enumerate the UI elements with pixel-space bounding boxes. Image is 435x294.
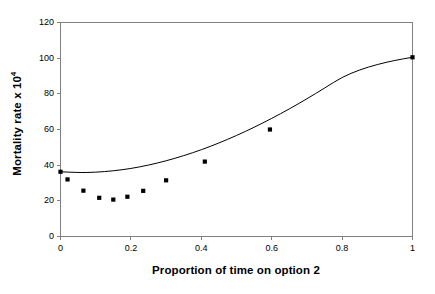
data-point-marker xyxy=(65,177,69,181)
data-point-marker xyxy=(410,55,414,59)
data-point-marker xyxy=(111,197,115,201)
data-point-marker xyxy=(81,189,85,193)
x-axis-title: Proportion of time on option 2 xyxy=(60,264,412,276)
data-point-marker xyxy=(125,195,129,199)
data-point-marker xyxy=(268,127,272,131)
fitted-curve xyxy=(61,57,413,172)
data-point-marker xyxy=(141,189,145,193)
x-axis-ticks xyxy=(61,237,413,241)
chart-figure: Mortality rate x 104 020406080100120 00.… xyxy=(0,0,435,294)
y-axis-ticks xyxy=(57,23,61,237)
data-point-marker xyxy=(58,170,62,174)
plot-frame xyxy=(61,23,413,237)
data-point-markers xyxy=(58,55,414,202)
plot-area xyxy=(0,0,435,294)
data-point-marker xyxy=(164,178,168,182)
data-point-marker xyxy=(203,160,207,164)
data-point-marker xyxy=(97,196,101,200)
